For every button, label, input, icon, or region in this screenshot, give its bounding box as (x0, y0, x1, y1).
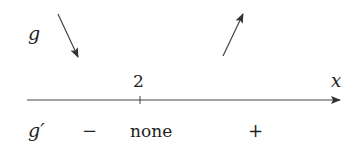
left-sign: − (82, 120, 97, 141)
derivative-label: g′ (28, 119, 45, 141)
variation-diagram: g 2 x g′ − none + (0, 0, 357, 154)
point-value: none (130, 121, 172, 141)
decreasing-arrow-icon (58, 14, 78, 57)
axis-label: x (331, 70, 341, 91)
increasing-arrow-icon (223, 14, 243, 56)
critical-point-label: 2 (133, 71, 144, 91)
right-sign: + (248, 120, 263, 141)
function-label: g (28, 22, 40, 44)
